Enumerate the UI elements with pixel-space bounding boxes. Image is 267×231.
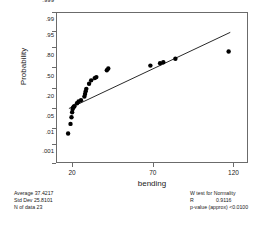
summary-statistics: Average 37.4217 Std Dev 25.8101 N of dat… [14,190,53,212]
x-tick-label: 70 [138,169,168,176]
data-point [94,75,98,79]
x-tick-mark [233,163,234,167]
y-tick-mark [52,108,56,109]
x-tick-mark [153,163,154,167]
reference-fit-line [69,32,230,108]
y-tick-mark [52,12,56,13]
y-tick-mark [52,144,56,145]
y-tick-label: .001 [34,148,54,154]
normality-test-r-value: 0.9116 [216,197,231,204]
x-tick-label: 20 [57,169,87,176]
y-tick-mark [52,163,56,164]
y-tick-mark [52,31,56,32]
data-point [68,122,72,126]
y-tick-label: .999 [34,0,54,3]
data-point [161,60,165,64]
data-point [226,49,230,53]
y-tick-label: .80 [34,52,54,58]
data-point [173,57,177,61]
x-axis-title: bending [56,179,248,188]
data-point [106,66,110,70]
x-tick-label: 120 [218,169,248,176]
normality-test-p-label: p-value (approx) [190,204,228,211]
y-tick-label: .20 [34,93,54,99]
y-tick-mark [52,88,56,89]
stat-average: Average 37.4217 [14,190,53,197]
data-point [66,131,70,135]
data-point [69,115,73,119]
normality-test-r-label: R [190,197,216,204]
normality-test-p-value: <0.0100 [229,204,248,211]
y-axis-title: Probability [19,22,28,112]
y-axis-ticks: .999.99.95.80.50.20.05.01.001 [30,0,54,151]
stat-n-of-data: N of data 23 [14,204,53,211]
normality-test-r-row: R0.9116 [190,197,248,204]
data-point [148,63,152,67]
y-tick-label: .01 [34,129,54,135]
y-tick-label: .99 [34,16,54,22]
y-tick-label: .50 [34,73,54,79]
normal-probability-plot: Probability .999.99.95.80.50.20.05.01.00… [0,0,267,231]
data-point [79,98,83,102]
stat-std-dev: Std Dev 25.8101 [14,197,53,204]
x-tick-mark [72,163,73,167]
normality-test-heading: W test for Normality [190,190,248,197]
y-tick-label: .05 [34,113,54,119]
y-tick-label: .95 [34,32,54,38]
y-tick-mark [52,47,56,48]
y-tick-mark [52,67,56,68]
normality-test-results: W test for Normality R0.9116 p-value (ap… [190,190,248,212]
data-point [84,87,88,91]
y-tick-mark [52,128,56,129]
normality-test-p-row: p-value (approx) <0.0100 [190,204,248,211]
plot-canvas [56,12,248,163]
